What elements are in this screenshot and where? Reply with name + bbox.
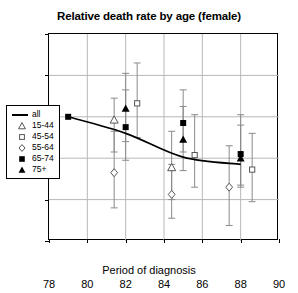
- x-axis-label: Period of diagnosis: [0, 264, 298, 276]
- marker-filled-square: [123, 124, 129, 130]
- chart-title: Relative death rate by age (female): [0, 10, 298, 22]
- x-tick-label: 88: [226, 278, 256, 290]
- chart-figure: Relative death rate by age (female) Rela…: [0, 0, 298, 293]
- legend-item-15-44[interactable]: 15-44: [10, 120, 54, 131]
- legend-marker-open-diamond-icon: [10, 142, 32, 153]
- legend-marker-line-icon: [10, 109, 32, 120]
- legend-marker-open-triangle-icon: [10, 120, 32, 131]
- x-tick-label: 80: [72, 278, 102, 290]
- x-tick-mark: [126, 239, 127, 243]
- x-tick-label: 90: [264, 278, 294, 290]
- legend-item-75plus[interactable]: 75+: [10, 164, 54, 175]
- x-tick-mark: [49, 239, 50, 243]
- marker-open-diamond: [168, 190, 175, 198]
- x-tick-label: 86: [187, 278, 217, 290]
- legend-item-45-54[interactable]: 45-54: [10, 131, 54, 142]
- series-line-all: [68, 117, 241, 165]
- marker-open-square: [135, 101, 140, 106]
- marker-open-square: [192, 152, 197, 157]
- plot-area: 0.40.60.811.21.478808284868890: [48, 33, 278, 240]
- legend-item-55-64[interactable]: 55-64: [10, 142, 54, 153]
- y-tick-mark: [45, 34, 49, 35]
- legend-marker-filled-triangle-icon: [10, 164, 32, 175]
- marker-filled-square: [180, 120, 186, 126]
- x-tick-mark: [87, 239, 88, 243]
- marker-open-diamond: [111, 169, 118, 177]
- legend-item-all[interactable]: all: [10, 109, 54, 120]
- data-markers: [65, 101, 255, 199]
- marker-filled-triangle: [179, 136, 187, 143]
- x-tick-mark: [164, 239, 165, 243]
- data-layer: [49, 34, 279, 241]
- x-tick-mark: [241, 239, 242, 243]
- legend-marker-open-square-icon: [10, 131, 32, 142]
- y-tick-mark: [45, 75, 49, 76]
- marker-filled-square: [65, 114, 71, 120]
- marker-open-diamond: [226, 183, 233, 191]
- x-tick-mark: [202, 239, 203, 243]
- gridlines: [49, 34, 279, 241]
- marker-filled-triangle: [122, 105, 130, 112]
- x-tick-mark: [279, 239, 280, 243]
- marker-open-square: [250, 167, 255, 172]
- x-tick-label: 82: [111, 278, 141, 290]
- error-bars: [111, 63, 256, 225]
- y-tick-mark: [45, 200, 49, 201]
- x-tick-label: 78: [34, 278, 64, 290]
- legend-label: 75+: [32, 163, 46, 175]
- legend-marker-filled-square-icon: [10, 153, 32, 164]
- legend-item-65-74[interactable]: 65-74: [10, 153, 54, 164]
- chart-legend: all15-4445-5455-6465-7475+: [6, 105, 60, 179]
- x-tick-label: 84: [149, 278, 179, 290]
